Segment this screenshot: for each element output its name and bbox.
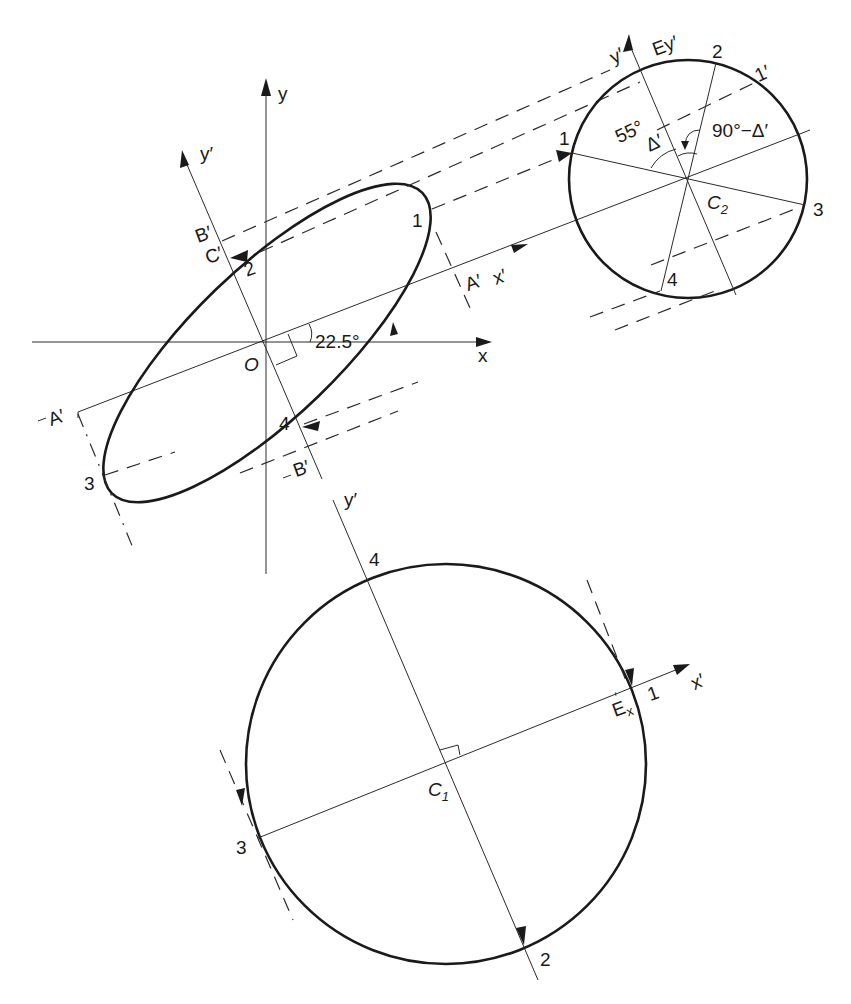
origin-label: O	[244, 354, 259, 375]
c2-point-4: 4	[667, 269, 678, 290]
ellipse-point-4: 4	[279, 413, 290, 434]
c2-point-3: 3	[813, 199, 824, 220]
c1-point2-arrow-icon	[516, 926, 526, 945]
dashed-line-middle	[260, 82, 640, 252]
ellipse-point-1: 1	[412, 210, 423, 231]
ellipse-panel: y x y′ x′ O 22.5° 1 2 3 4 B′ C′ A′ A′ B′	[32, 70, 810, 574]
y-prime-label: y′	[200, 143, 214, 164]
c2-complement-arrow-icon	[681, 141, 689, 150]
x-prime-axis	[78, 130, 810, 412]
c1-point-1: 1	[645, 682, 662, 705]
b-prime-top-label: B′	[192, 221, 215, 246]
c2-diameter-2-4	[661, 63, 716, 291]
x-axis-label: x	[478, 345, 488, 366]
c1-x-prime-label: x′	[687, 669, 708, 694]
c1-right-angle-mark	[440, 745, 460, 755]
c2-point-1: 1	[559, 128, 570, 149]
b-prime-bottom-dash	[283, 475, 291, 478]
c2-angle-complement: 90°−Δ′	[712, 120, 769, 141]
c2-dashed-4-left	[590, 291, 660, 317]
c2-angle-delta: Δ′	[642, 129, 666, 155]
c2-y-prime-label: y′	[606, 43, 627, 68]
c1-dashed-tangent-1	[587, 580, 628, 686]
x-prime-axis-arrow-icon	[511, 244, 528, 253]
y-axis-arrow-icon	[261, 78, 271, 96]
c1-y-prime-axis	[333, 500, 538, 980]
a-prime-left-label: A′	[45, 405, 68, 430]
dashed-line-point3	[105, 452, 175, 475]
angle-arc	[309, 324, 312, 342]
c1-center-label: C1	[428, 779, 449, 804]
circle-c1-panel: y′ 4 x′ 1 Ex′ C1 3 2	[220, 489, 709, 980]
c1-dashed-tangent-3	[220, 750, 293, 920]
c2-y-prime-axis	[631, 48, 736, 295]
ellipse-point-3: 3	[84, 473, 95, 494]
dashed-a-prime-right	[436, 232, 470, 308]
c2-ey-prime-label: Ey′	[649, 31, 681, 60]
dashed-line-point1	[432, 155, 565, 209]
b-prime-bottom-label: B′	[290, 456, 313, 481]
c1-y-prime-label: y′	[344, 489, 358, 510]
x-prime-label: x′	[490, 264, 510, 288]
a-prime-right-label: A′	[462, 270, 485, 295]
a-prime-left-dash	[38, 418, 46, 421]
y-prime-axis	[185, 160, 322, 479]
c2-point-2: 2	[712, 41, 723, 62]
polarization-ellipse	[60, 140, 474, 547]
c1-x-prime-arrow-icon	[673, 664, 690, 675]
ellipse-arrow-4-icon	[302, 421, 320, 431]
c2-angle-55: 55°	[612, 116, 647, 147]
y-prime-axis-arrow-icon	[180, 150, 189, 168]
ellipse-point-2: 2	[241, 257, 258, 280]
ellipse-arrow-up-icon	[390, 322, 398, 336]
c1-point-4: 4	[369, 549, 380, 570]
angle-label: 22.5°	[315, 331, 360, 352]
circle-c2-panel: y′ Ey′ 2 1′ 1 3 4 55° Δ′ 90°−Δ′ C2	[556, 31, 824, 330]
c2-center-label: C2	[707, 192, 729, 217]
c1-point-3: 3	[236, 837, 247, 858]
c1-point3-arrow-icon	[236, 788, 245, 806]
c2-y-prime-arrow-icon	[623, 34, 633, 52]
c1-point-2: 2	[540, 949, 551, 970]
polarization-diagram: y x y′ x′ O 22.5° 1 2 3 4 B′ C′ A′ A′ B′	[0, 0, 851, 1004]
y-axis-label: y	[278, 83, 288, 104]
c2-point-1-prime: 1′	[751, 61, 773, 86]
right-angle-mark	[276, 334, 297, 365]
dashed-line-point4	[304, 382, 418, 424]
